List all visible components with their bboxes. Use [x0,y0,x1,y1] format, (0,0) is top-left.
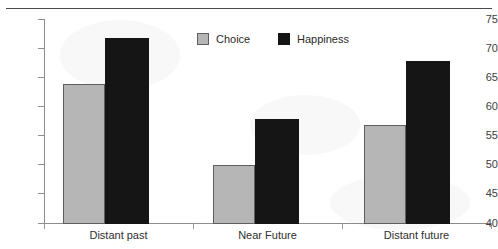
legend-label-choice: Choice [216,33,250,45]
bar-happiness-near-future [255,119,299,224]
y-tick-label: 65 [464,72,498,83]
y-tick-mark [38,19,45,20]
y-tick-label: 70 [464,43,498,54]
bar-choice-distant-past [63,84,105,224]
x-axis-label-near-future: Near Future [193,229,342,242]
y-tick-label: 55 [464,130,498,141]
y-tick-label: 60 [464,101,498,112]
legend-item-choice: Choice [197,33,250,45]
y-tick-mark [38,106,45,107]
bar-happiness-distant-past [105,38,149,224]
legend-item-happiness: Happiness [278,33,349,45]
y-tick-mark [38,193,45,194]
black-square-icon [278,33,290,45]
y-tick-mark [38,77,45,78]
category-separator [491,223,492,229]
x-axis-label-distant-future: Distant future [342,229,491,242]
x-axis-label-distant-past: Distant past [44,229,193,242]
legend-label-happiness: Happiness [297,33,349,45]
y-tick-mark [38,48,45,49]
y-tick-mark [38,135,45,136]
bar-chart-figure: 75 70 65 60 55 50 45 40 Distant past Nea… [0,0,498,249]
y-tick-label: 50 [464,159,498,170]
bar-happiness-distant-future [406,61,450,224]
bar-choice-distant-future [364,125,406,224]
gray-square-icon [197,33,209,45]
y-tick-label: 45 [464,188,498,199]
bar-choice-near-future [213,165,255,224]
y-tick-label: 75 [464,14,498,25]
header-rule [6,8,492,9]
y-tick-mark [38,164,45,165]
y-tick-label: 40 [464,218,498,229]
